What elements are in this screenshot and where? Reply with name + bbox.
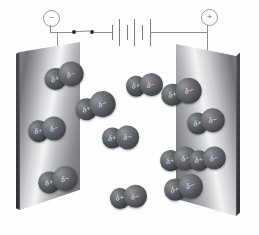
molecule-negative-pole-label: δ−: [116, 132, 140, 143]
positive-plate-charge-label: +: [220, 50, 225, 60]
molecule-negative-pole-label: δ−: [58, 66, 85, 82]
polar-molecule: δ+δ−: [125, 72, 161, 98]
molecule-negative-pole-label: δ−: [200, 113, 225, 127]
polar-molecule: δ+δ−: [109, 184, 145, 211]
wire-segment: [57, 32, 73, 33]
negative-terminal-node: −: [43, 10, 60, 27]
molecule-negative-pole-label: δ−: [202, 151, 226, 164]
wire-segment: [150, 32, 208, 33]
molecule-negative-pole-label: δ−: [52, 171, 78, 185]
molecule-negative-pole-label: δ−: [89, 95, 116, 111]
molecule-negative-pole: δ−: [115, 125, 140, 150]
positive-terminal-node: +: [201, 9, 218, 26]
switch-blade[interactable]: [76, 31, 90, 32]
molecule-negative-pole-label: δ−: [178, 179, 204, 194]
molecule-negative-pole-label: δ−: [175, 83, 202, 98]
negative-plate-charge-label: −: [28, 49, 33, 59]
figure-canvas: − + −: [0, 0, 259, 235]
molecule-negative-pole-label: δ−: [41, 122, 66, 135]
polar-molecule: δ+δ−: [101, 125, 137, 151]
molecule-negative-pole-label: δ−: [123, 190, 147, 202]
wire-segment: [94, 32, 112, 33]
